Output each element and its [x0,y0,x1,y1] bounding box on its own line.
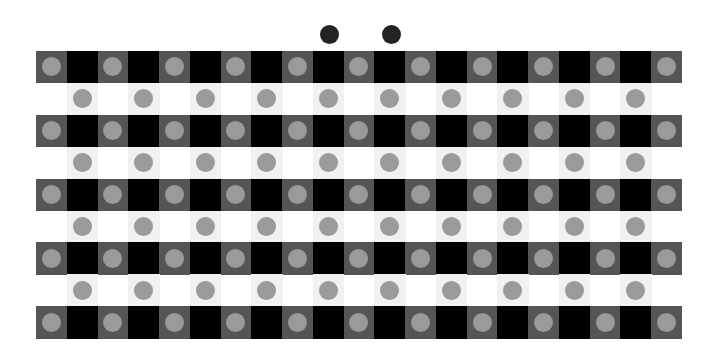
black-square [251,242,282,274]
gray-circle [534,185,553,204]
gray-circle [626,281,645,300]
gray-circle [442,281,461,300]
gray-circle [42,121,61,140]
black-square [128,306,159,338]
gray-circle [565,89,584,108]
black-square [559,51,590,83]
gray-circle [596,185,615,204]
gray-circle [442,89,461,108]
black-square [313,51,344,83]
black-square [620,51,651,83]
gray-circle [503,281,522,300]
gray-circle [473,121,492,140]
gray-circle [165,313,184,332]
gray-circle [473,185,492,204]
gray-circle [288,249,307,268]
gray-circle [565,217,584,236]
gray-circle [42,313,61,332]
gray-circle [226,313,245,332]
gray-circle [103,313,122,332]
gray-circle [596,249,615,268]
gray-circle [319,281,338,300]
black-square [497,306,528,338]
gray-circle [257,217,276,236]
black-square [497,242,528,274]
gray-circle [657,185,676,204]
black-square [128,242,159,274]
black-square [251,115,282,147]
gray-circle [411,249,430,268]
gray-circle [442,153,461,172]
black-square [374,51,405,83]
black-square [374,306,405,338]
black-square [620,306,651,338]
gray-circle [73,153,92,172]
illusion-canvas [0,0,714,360]
gray-circle [73,281,92,300]
gray-circle [134,281,153,300]
black-square [497,51,528,83]
black-square [374,179,405,211]
black-square [374,115,405,147]
gray-circle [165,249,184,268]
black-square [128,179,159,211]
gray-circle [134,217,153,236]
gray-circle [196,281,215,300]
gray-circle [73,217,92,236]
gray-circle [473,313,492,332]
gray-circle [196,153,215,172]
gray-circle [288,185,307,204]
gray-circle [42,185,61,204]
black-square [313,115,344,147]
black-square [313,179,344,211]
black-square [67,115,98,147]
black-square [374,242,405,274]
gray-circle [319,217,338,236]
black-square [251,306,282,338]
black-square [620,115,651,147]
black-square [67,306,98,338]
black-square [190,51,221,83]
black-square [67,179,98,211]
gray-circle [411,185,430,204]
black-square [128,115,159,147]
gray-circle [473,249,492,268]
gray-circle [565,281,584,300]
gray-circle [596,57,615,76]
black-square [128,51,159,83]
black-square [559,306,590,338]
black-reference-dot [320,25,339,44]
black-square [67,242,98,274]
black-square [620,179,651,211]
black-square [559,242,590,274]
black-square [67,51,98,83]
gray-circle [596,121,615,140]
black-square [436,306,467,338]
gray-circle [73,89,92,108]
gray-circle [534,313,553,332]
black-square [497,115,528,147]
black-square [313,306,344,338]
black-square [559,115,590,147]
black-reference-dot [382,25,401,44]
gray-circle [657,313,676,332]
gray-circle [534,249,553,268]
black-square [251,179,282,211]
black-square [620,242,651,274]
gray-circle [288,313,307,332]
black-square [190,306,221,338]
gray-circle [596,313,615,332]
gray-circle [196,217,215,236]
gray-circle [411,313,430,332]
black-square [313,242,344,274]
black-square [436,51,467,83]
black-square [436,179,467,211]
gray-circle [319,89,338,108]
black-square [190,242,221,274]
gray-circle [473,57,492,76]
black-square [559,179,590,211]
black-square [190,179,221,211]
gray-circle [257,281,276,300]
black-square [436,115,467,147]
gray-circle [196,89,215,108]
